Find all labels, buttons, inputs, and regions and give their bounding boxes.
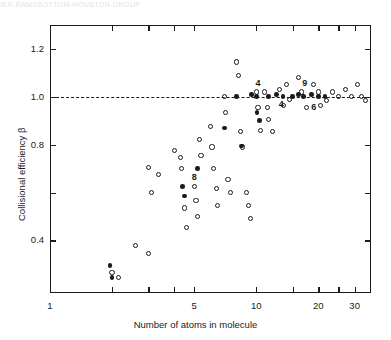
x-tick-top — [256, 25, 257, 31]
x-tick — [50, 287, 51, 293]
y-tick — [50, 145, 56, 146]
data-point — [265, 105, 270, 110]
data-point — [236, 73, 241, 78]
x-tick-top — [174, 25, 175, 31]
x-tick-top — [318, 25, 319, 31]
data-point — [234, 94, 239, 99]
x-tick — [194, 287, 195, 293]
data-point — [255, 110, 260, 115]
y-tick-label: 1.2 — [10, 43, 44, 54]
x-tick — [148, 287, 149, 293]
data-point — [290, 94, 295, 99]
data-point — [172, 148, 177, 153]
x-tick-top — [194, 25, 195, 31]
y-tick-right — [365, 49, 371, 50]
data-point — [343, 87, 348, 92]
x-tick-top — [148, 25, 149, 31]
annotation-label: 9 — [302, 79, 307, 88]
data-point — [146, 251, 151, 256]
data-point — [258, 128, 263, 133]
x-tick — [293, 287, 294, 293]
x-tick-label: 30 — [340, 300, 370, 311]
y-tick — [50, 193, 56, 194]
data-point — [110, 275, 115, 280]
x-tick-top — [50, 25, 51, 31]
data-point — [209, 144, 214, 149]
x-tick — [174, 287, 175, 293]
data-point — [180, 184, 185, 189]
y-tick-label: 1.0 — [10, 91, 44, 102]
y-axis-title: Collisional efficiency β — [16, 128, 27, 221]
x-tick-label: 20 — [303, 300, 333, 311]
data-point — [225, 177, 230, 182]
data-point — [318, 103, 323, 108]
y-tick — [50, 240, 56, 241]
data-point — [108, 263, 113, 268]
x-tick — [338, 287, 339, 293]
x-tick — [256, 287, 257, 293]
x-tick-top — [293, 25, 294, 31]
data-point — [296, 92, 301, 97]
x-tick — [355, 287, 356, 293]
x-tick — [318, 287, 319, 293]
plot-frame — [50, 25, 371, 293]
data-point — [182, 205, 187, 210]
x-axis-title: Number of atoms in molecule — [0, 319, 391, 330]
data-point — [184, 225, 189, 230]
x-tick-top — [338, 25, 339, 31]
data-point — [133, 243, 138, 248]
x-tick-label: 1 — [35, 300, 65, 311]
y-tick-right — [365, 193, 371, 194]
data-point — [316, 94, 321, 99]
data-point — [192, 184, 197, 189]
y-tick-right — [365, 240, 371, 241]
data-point — [195, 166, 200, 171]
data-point — [222, 126, 227, 131]
annotation-label: 4 — [279, 100, 284, 109]
x-tick-top — [355, 25, 356, 31]
data-point — [146, 165, 151, 170]
x-tick-top — [112, 25, 113, 31]
data-point — [323, 94, 328, 99]
data-point — [223, 110, 228, 115]
annotation-label: 6 — [311, 103, 316, 112]
figure-container: 0.40.81.01.2 15102030 84496 Collisional … — [0, 0, 391, 340]
y-tick — [50, 97, 56, 98]
data-point — [330, 89, 335, 94]
data-point — [149, 190, 154, 195]
data-point — [309, 92, 314, 97]
data-point — [198, 153, 203, 158]
x-tick — [112, 287, 113, 293]
data-point — [156, 172, 161, 177]
data-point — [254, 94, 259, 99]
x-tick-label: 10 — [241, 300, 271, 311]
data-point — [239, 144, 244, 149]
annotation-label: 4 — [256, 79, 261, 88]
data-point — [193, 198, 198, 203]
y-tick-label: 0.4 — [10, 234, 44, 245]
x-tick-label: 5 — [179, 300, 209, 311]
data-point — [234, 59, 239, 64]
data-point — [274, 92, 279, 97]
y-tick-right — [365, 145, 371, 146]
y-tick — [50, 49, 56, 50]
annotation-label: 8 — [192, 173, 197, 182]
